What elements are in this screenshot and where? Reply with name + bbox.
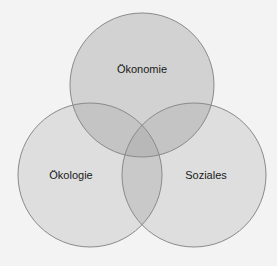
label-soziales: Soziales	[185, 169, 227, 181]
label-oekonomie: Ökonomie	[117, 63, 167, 75]
label-oekologie: Ökologie	[49, 169, 92, 181]
venn-diagram	[0, 0, 277, 266]
